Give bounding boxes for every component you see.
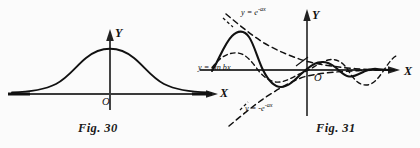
figure-caption: Fig. 31 [316,121,356,136]
x-axis-label: X [404,64,412,79]
damped-sine-label: y = sin bx [198,63,231,72]
damped-sine-curve [212,32,394,87]
lower-envelope-label-base: y = -e [245,104,265,113]
upper-envelope-label: y = e-ax [241,8,266,17]
y-axis-label: Y [115,26,122,41]
upper-envelope-label-exponent: -ax [258,5,266,12]
y-axis-label: Y [312,8,319,23]
figure-31: Y X O y = e-ax y = sin bx y = -e-ax Fig.… [196,0,420,148]
origin-label: O [314,72,322,83]
lower-envelope-curve [229,70,394,126]
figure-plate: Y X O Fig. 30 [0,0,420,148]
lower-envelope-label-exponent: -ax [265,101,273,108]
origin-label: O [102,96,110,107]
lower-envelope-label: y = -e-ax [245,104,273,113]
figure-caption: Fig. 30 [78,121,118,136]
figure-31-plot [196,0,420,148]
upper-envelope-label-base: y = e [241,8,258,17]
